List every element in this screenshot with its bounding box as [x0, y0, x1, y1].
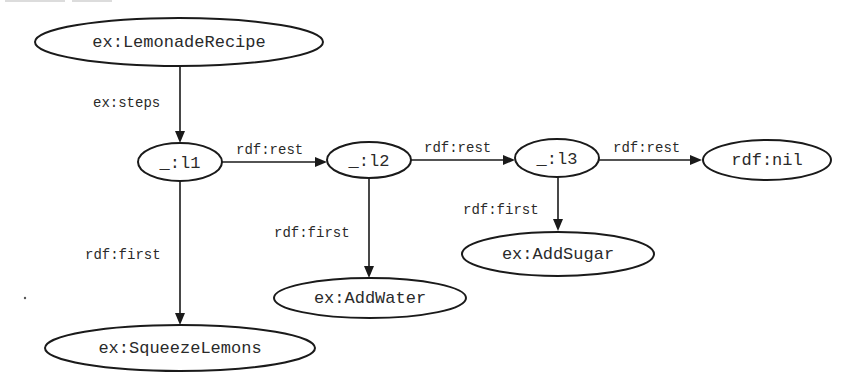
arrow-head-icon [503, 155, 515, 165]
node-label: ex:SqueezeLemons [98, 339, 261, 358]
scan-dot [24, 297, 26, 299]
arrow-head-icon [553, 219, 563, 231]
node-add-sugar: ex:AddSugar [462, 232, 654, 276]
node-squeeze-lemons: ex:SqueezeLemons [45, 325, 315, 371]
arrow-head-icon [315, 157, 327, 167]
edge-label: rdf:rest [236, 142, 303, 158]
edge-label: rdf:first [274, 225, 350, 241]
node-label: _:l2 [348, 152, 390, 171]
node-label: _:l3 [536, 150, 578, 169]
edge-label: rdf:first [463, 202, 539, 218]
edge-label: ex:steps [93, 95, 160, 111]
node-l3: _:l3 [515, 139, 599, 177]
node-label: ex:AddWater [314, 289, 426, 308]
edge-label: rdf:rest [613, 140, 680, 156]
edge-rdf-rest-2: rdf:rest [411, 140, 515, 165]
edge-label: rdf:rest [424, 140, 491, 156]
arrow-head-icon [364, 266, 374, 278]
scan-mark [5, 0, 65, 2]
node-label: ex:LemonadeRecipe [92, 33, 265, 52]
arrow-head-icon [175, 313, 185, 325]
edge-label: rdf:first [85, 247, 161, 263]
edge-rdf-first-1: rdf:first [85, 181, 185, 325]
arrow-head-icon [175, 131, 185, 143]
node-label: ex:AddSugar [502, 245, 614, 264]
edge-rdf-first-2: rdf:first [274, 178, 374, 278]
node-label: _:l1 [159, 154, 201, 173]
rdf-list-diagram: ex:steps rdf:rest rdf:rest rdf:rest rdf:… [0, 0, 857, 388]
scan-mark [72, 0, 112, 2]
node-l1: _:l1 [138, 143, 222, 181]
node-l2: _:l2 [327, 142, 411, 178]
arrow-head-icon [690, 155, 702, 165]
node-add-water: ex:AddWater [274, 278, 466, 318]
edge-ex-steps: ex:steps [93, 66, 185, 143]
node-lemonade-recipe: ex:LemonadeRecipe [35, 18, 323, 66]
edge-rdf-rest-1: rdf:rest [222, 142, 327, 167]
edge-rdf-rest-3: rdf:rest [599, 140, 702, 165]
edge-rdf-first-3: rdf:first [463, 177, 563, 231]
node-label: rdf:nil [731, 151, 802, 170]
node-rdf-nil: rdf:nil [703, 140, 831, 180]
